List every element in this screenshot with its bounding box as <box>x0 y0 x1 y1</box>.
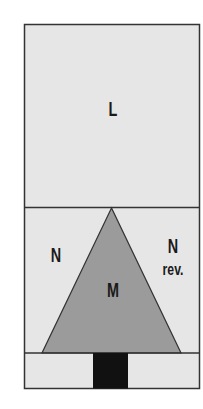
region-label-n-left: N <box>51 245 61 265</box>
region-label-n-right: N <box>168 236 178 256</box>
tree-trunk <box>93 353 128 389</box>
region-label-m: M <box>107 280 119 300</box>
quilt-block-diagram <box>0 0 203 409</box>
region-label-l: L <box>109 99 118 119</box>
region-sublabel-rev: rev. <box>163 261 184 278</box>
